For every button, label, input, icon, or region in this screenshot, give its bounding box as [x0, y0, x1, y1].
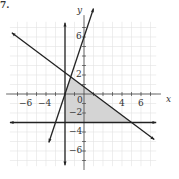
- arrowhead-icon: [153, 121, 157, 124]
- x-axis-label: x: [166, 94, 171, 104]
- problem-number: 7.: [0, 0, 9, 10]
- y-tick-label: −6: [69, 145, 82, 155]
- y-tick-label: −4: [69, 126, 82, 136]
- line-3: [12, 33, 155, 140]
- arrowhead-icon: [49, 138, 52, 142]
- arrowhead-icon: [63, 23, 66, 27]
- arrowhead-icon: [63, 162, 66, 166]
- y-tick-label: 6: [76, 31, 82, 41]
- inequality-graph: [0, 0, 179, 179]
- x-tick-label: −6: [19, 98, 32, 108]
- arrowhead-icon: [91, 9, 94, 13]
- y-axis-label: y: [77, 5, 82, 15]
- arrowhead-icon: [10, 121, 14, 124]
- x-tick-label: −4: [38, 98, 51, 108]
- x-tick-label: 4: [119, 98, 125, 108]
- origin-label: 0: [77, 95, 83, 105]
- y-tick-label: −2: [69, 107, 82, 117]
- y-tick-label: 2: [76, 69, 82, 79]
- x-tick-label: 6: [138, 98, 144, 108]
